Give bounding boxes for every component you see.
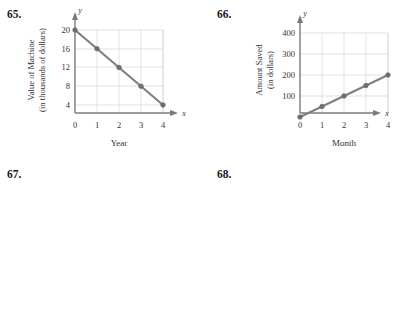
x-axis-letter: x: [181, 109, 186, 118]
x-axis-letter: x: [384, 109, 389, 118]
x-tick-label: 2: [342, 120, 346, 130]
exercise-grid: 65. yx0123448121620YearValue of Machine(…: [0, 0, 409, 319]
y-axis-title: Value of Machine: [26, 39, 36, 100]
x-tick-label: 4: [386, 120, 391, 130]
y-tick-label: 200: [282, 70, 295, 80]
chart-68: yx01235101520YearNumber of NamedHurrican…: [205, 160, 409, 319]
x-tick-label: 3: [139, 120, 143, 130]
x-tick-label: 0: [73, 120, 77, 130]
data-point: [320, 104, 325, 109]
y-tick-label: 20: [62, 25, 71, 35]
y-axis-arrowhead: [72, 12, 78, 20]
data-point: [161, 103, 166, 108]
y-axis-title-line2: (in thousands of dollars): [37, 28, 47, 112]
problem-66: 66. yx01234100200300400MonthAmount Saved…: [205, 0, 409, 160]
data-point: [139, 84, 144, 89]
data-point: [364, 83, 369, 88]
y-axis-title-line2: (in dollars): [265, 51, 275, 89]
chart-67: yx012342468YearPercent of Pay Raise: [0, 160, 205, 319]
data-point: [95, 46, 100, 51]
x-tick-label: 1: [320, 120, 324, 130]
y-tick-label: 300: [282, 49, 295, 59]
y-tick-label: 12: [62, 62, 71, 72]
x-tick-label: 0: [298, 120, 302, 130]
y-axis-arrowhead: [297, 15, 303, 23]
y-axis-letter: y: [302, 9, 307, 18]
data-point: [342, 94, 347, 99]
x-tick-label: 3: [364, 120, 368, 130]
y-tick-label: 8: [66, 81, 70, 91]
y-tick-label: 4: [66, 100, 71, 110]
y-tick-label: 400: [282, 28, 295, 38]
chart-66: yx01234100200300400MonthAmount Saved(in …: [205, 0, 409, 160]
y-tick-label: 100: [282, 91, 295, 101]
x-axis-arrowhead: [170, 110, 178, 116]
x-axis-arrowhead: [373, 110, 381, 116]
data-point: [73, 28, 78, 33]
problem-68: 68. yx01235101520YearNumber of NamedHurr…: [205, 160, 409, 319]
data-point: [386, 73, 391, 78]
data-point: [298, 115, 303, 120]
chart-65: yx0123448121620YearValue of Machine(in t…: [0, 0, 205, 160]
y-axis-letter: y: [77, 6, 82, 15]
y-axis-title: Amount Saved: [254, 44, 264, 96]
x-tick-label: 1: [95, 120, 99, 130]
data-point: [117, 65, 122, 70]
problem-67: 67. yx012342468YearPercent of Pay Raise: [0, 160, 205, 319]
problem-65: 65. yx0123448121620YearValue of Machine(…: [0, 0, 205, 160]
x-axis-title: Year: [111, 138, 128, 148]
y-tick-label: 16: [62, 44, 71, 54]
x-tick-label: 2: [117, 120, 121, 130]
x-axis-title: Month: [332, 138, 357, 148]
x-tick-label: 4: [161, 120, 166, 130]
